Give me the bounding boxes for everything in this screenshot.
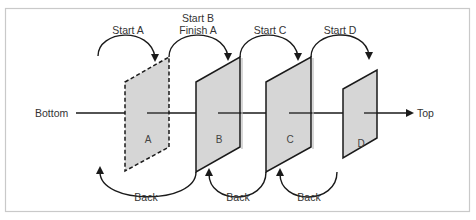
panel-b-label: B — [216, 134, 223, 145]
panel-c-shadow — [312, 58, 314, 149]
axis-label-bottom: Bottom — [35, 107, 69, 119]
label-back-3: Back — [297, 191, 321, 203]
label-back-2: Back — [226, 191, 250, 203]
label-finish-a: Finish A — [179, 24, 216, 36]
panel-b-shadow — [241, 58, 243, 149]
label-start-b: Start B — [182, 12, 214, 24]
label-back-1: Back — [134, 191, 158, 203]
panel-c-label: C — [286, 134, 293, 145]
axis-label-top: Top — [417, 107, 434, 119]
label-start-c: Start C — [254, 24, 287, 36]
panel-d-label: D — [357, 138, 364, 149]
panel-a-label: A — [145, 134, 152, 145]
label-start-a: Start A — [112, 24, 144, 36]
label-start-d: Start D — [324, 24, 357, 36]
activity-stack-diagram: Bottom Top A B C D — [0, 0, 476, 220]
